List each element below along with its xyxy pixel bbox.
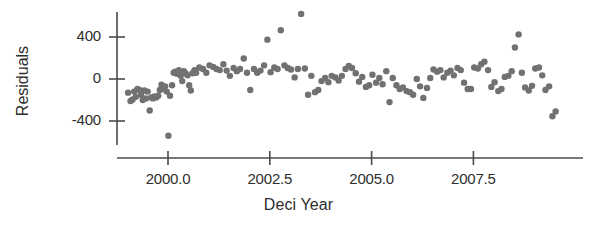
data-point <box>339 73 345 79</box>
data-point <box>188 87 194 93</box>
data-point <box>390 75 396 81</box>
data-point <box>144 88 150 94</box>
data-point <box>298 11 304 17</box>
x-tick-label: 2000.0 <box>123 170 213 187</box>
data-point <box>376 75 382 81</box>
data-point <box>529 83 535 89</box>
data-point <box>491 79 497 85</box>
data-point <box>536 64 542 70</box>
data-point <box>519 70 525 76</box>
data-point <box>227 73 233 79</box>
data-point <box>179 78 185 84</box>
x-tick-label: 2007.5 <box>428 170 518 187</box>
data-point <box>274 66 280 72</box>
data-point <box>420 95 426 101</box>
data-point <box>437 67 443 73</box>
data-point <box>410 92 416 98</box>
data-point <box>315 87 321 93</box>
data-point <box>468 86 474 92</box>
data-point <box>278 27 284 33</box>
data-point <box>288 66 294 72</box>
data-point <box>458 67 464 73</box>
data-point <box>257 67 263 73</box>
data-point <box>146 107 152 113</box>
data-point <box>295 66 301 72</box>
data-point <box>417 83 423 89</box>
data-points-group <box>125 11 559 139</box>
data-point <box>220 61 226 67</box>
data-point <box>308 73 314 79</box>
data-point <box>167 93 173 99</box>
data-point <box>125 89 131 95</box>
data-point <box>349 65 355 71</box>
data-point <box>451 72 457 78</box>
data-point <box>383 68 389 74</box>
data-point <box>546 83 552 89</box>
data-point <box>155 93 161 99</box>
data-point <box>247 87 253 93</box>
data-point <box>552 108 558 114</box>
data-point <box>264 36 270 42</box>
data-point <box>237 66 243 72</box>
data-point <box>461 79 467 85</box>
data-point <box>325 79 331 85</box>
x-axis-title: Deci Year <box>0 196 597 214</box>
data-point <box>244 70 250 76</box>
data-point <box>515 31 521 37</box>
y-tick-label: 400 <box>21 27 101 44</box>
x-tick-label: 2002.5 <box>225 170 315 187</box>
data-point <box>302 65 308 71</box>
data-point <box>539 72 545 78</box>
data-point <box>498 86 504 92</box>
axes-group <box>109 12 583 165</box>
data-point <box>424 85 430 91</box>
data-point <box>366 82 372 88</box>
y-axis-title: Residuals <box>14 31 32 131</box>
data-point <box>508 68 514 74</box>
data-point <box>217 67 223 73</box>
residuals-scatter-figure: 4000-400 2000.02002.52005.02007.5 Residu… <box>0 0 597 228</box>
data-point <box>203 70 209 76</box>
data-point <box>485 67 491 73</box>
data-point <box>369 72 375 78</box>
data-point <box>359 74 365 80</box>
data-point <box>512 44 518 50</box>
data-point <box>386 99 392 105</box>
data-point <box>169 82 175 88</box>
data-point <box>427 75 433 81</box>
y-tick-label: 0 <box>21 69 101 86</box>
data-point <box>165 133 171 139</box>
data-point <box>481 58 487 64</box>
data-point <box>143 95 149 101</box>
data-point <box>261 62 267 68</box>
x-tick-label: 2005.0 <box>327 170 417 187</box>
data-point <box>414 76 420 82</box>
data-point <box>241 55 247 61</box>
data-point <box>379 81 385 87</box>
data-point <box>353 70 359 76</box>
data-point <box>305 92 311 98</box>
data-point <box>291 74 297 80</box>
y-tick-label: -400 <box>21 111 101 128</box>
